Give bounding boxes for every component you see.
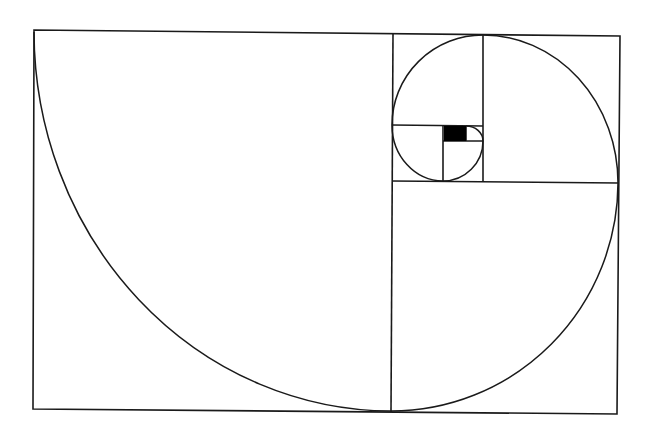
spiral-arc-1 [34,32,391,411]
spiral-arc-4 [392,35,483,125]
golden-spiral-diagram [0,0,652,437]
divider-vertical-main [391,34,393,412]
filled-square [444,126,466,141]
outer-rectangle [33,30,620,414]
spiral-arc-5 [392,125,443,181]
spiral-arc-7 [466,126,483,141]
spiral-arc-6 [443,141,483,181]
divider-horizontal-right [392,181,618,183]
spiral-arc-3 [483,35,618,183]
spiral-arc-2 [391,183,618,411]
